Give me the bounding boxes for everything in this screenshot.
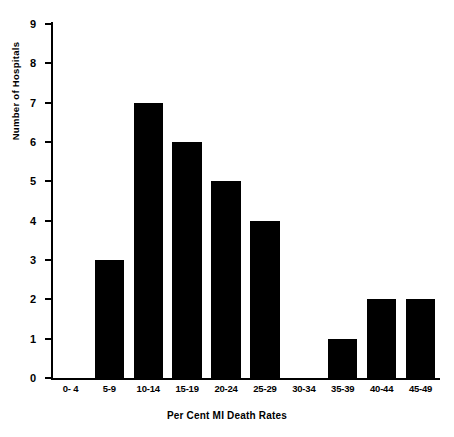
y-axis-tick: 8 — [45, 62, 51, 64]
bar — [250, 221, 279, 378]
x-axis-line — [51, 378, 440, 380]
x-axis-title: Per Cent MI Death Rates — [0, 410, 454, 421]
chart-title-cropped — [0, 0, 454, 12]
y-axis-tick-label: 6 — [30, 137, 36, 148]
y-axis-tick: 5 — [45, 180, 51, 182]
x-axis-tick-label: 5-9 — [90, 384, 129, 394]
x-axis-tick-label: 25-29 — [246, 384, 285, 394]
y-axis-tick: 7 — [45, 102, 51, 104]
bar — [367, 299, 396, 378]
bar — [406, 299, 435, 378]
y-axis-tick: 3 — [45, 259, 51, 261]
bar — [211, 181, 240, 378]
x-axis-tick-label: 15-19 — [168, 384, 207, 394]
bar — [95, 260, 124, 378]
y-axis-tick-label: 8 — [30, 58, 36, 69]
y-axis-tick: 1 — [45, 338, 51, 340]
x-axis-tick-label: 30-34 — [284, 384, 323, 394]
y-axis-title: Number of Hospitals — [8, 26, 24, 156]
y-axis-tick-label: 2 — [30, 294, 36, 305]
y-axis-tick: 0 — [45, 377, 51, 379]
y-axis-tick: 6 — [45, 141, 51, 143]
bar — [172, 142, 201, 378]
x-axis-tick-label: 35-39 — [323, 384, 362, 394]
x-axis-tick-label: 45-49 — [401, 384, 440, 394]
y-axis-tick-label: 1 — [30, 333, 36, 344]
y-axis-line — [51, 22, 53, 378]
y-axis-tick-label: 9 — [30, 19, 36, 30]
plot-area: 0123456789 — [51, 22, 440, 380]
y-axis-tick: 2 — [45, 298, 51, 300]
x-axis-tick-label: 20-24 — [207, 384, 246, 394]
y-axis-tick-label: 0 — [30, 373, 36, 384]
x-axis-tick-label: 40-44 — [362, 384, 401, 394]
bar — [328, 339, 357, 378]
y-axis-tick-label: 3 — [30, 255, 36, 266]
y-axis-tick: 9 — [45, 23, 51, 25]
y-axis-tick: 4 — [45, 220, 51, 222]
bar — [134, 103, 163, 378]
bar-chart-figure: Number of Hospitals 0123456789 0- 45-910… — [0, 0, 454, 437]
x-axis-tick-label: 0- 4 — [51, 384, 90, 394]
y-axis-tick-label: 4 — [30, 215, 36, 226]
y-axis-tick-label: 7 — [30, 97, 36, 108]
y-axis-tick-label: 5 — [30, 176, 36, 187]
x-axis-tick-label: 10-14 — [129, 384, 168, 394]
